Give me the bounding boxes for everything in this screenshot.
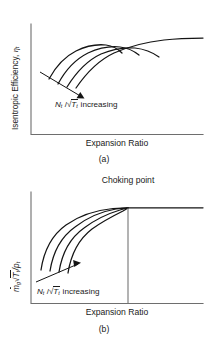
figure-panel-b: mg√Tt/pt Choking point Nt /√Tt increasin… [0,170,208,349]
plot-b-y-radical: √ [11,277,21,282]
plot-b-x-axis-label: Expansion Ratio [31,308,203,318]
plot-b-y-rad-var: T [11,272,21,277]
plot-a-curve-2 [58,47,139,84]
plot-a-y-axis-label: Isentropic Efficiency, ηt [11,47,21,130]
plot-a-y-label-text: Isentropic Efficiency, [10,52,20,130]
plot-b-y-axis-label: mg√Tt/pt [12,262,22,292]
plot-a-caption: (a) [0,155,208,165]
plot-b-annot-tail: increasing [60,287,99,296]
figure-panel-a: Isentropic Efficiency, ηt Nt /√Tt increa… [0,0,208,175]
plot-b-annotation: Nt /√Tt increasing [37,287,99,297]
plot-b-curve-1 [41,208,128,270]
plot-a-y-label-subscript: t [14,47,20,49]
plot-a-axes [31,24,203,135]
plot-b-choking-label: Choking point [92,176,164,186]
plot-a-annotation: Nt /√Tt increasing [55,100,117,110]
plot-b-y-mdot: m [12,285,22,292]
plot-b-y-denom-sub: t [15,262,21,264]
plot-b-curve-3 [59,208,128,272]
plot-a-annot-tail: increasing [78,100,117,109]
plot-a-x-axis-label: Expansion Ratio [31,139,203,149]
plot-b-caption: (b) [0,325,208,335]
plot-b-y-rad-sub: t [15,271,21,273]
plot-b-y-denom: /p [11,263,21,270]
plot-b-geometry [0,170,208,349]
